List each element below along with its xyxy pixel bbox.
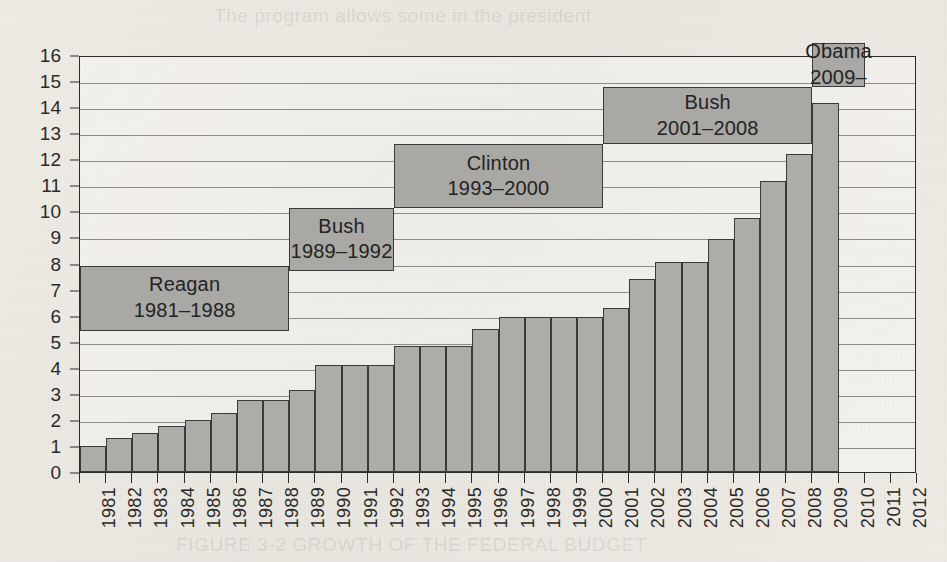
x-tick-mark [576, 473, 577, 483]
annotation-president-years: 1993–2000 [448, 176, 550, 202]
y-tick-mark-1 [70, 446, 79, 447]
y-tick-mark-13 [70, 134, 79, 135]
x-tick-label-1991: 1991 [361, 487, 382, 528]
bar-1983 [132, 433, 158, 472]
x-tick-mark [210, 473, 211, 483]
x-tick-mark [105, 473, 106, 483]
x-tick-mark [184, 473, 185, 483]
x-tick-label-2002: 2002 [648, 487, 669, 528]
annotation-president-name: Reagan [149, 272, 220, 298]
x-tick-label-2005: 2005 [727, 487, 748, 528]
y-tick-label-13: 13 [13, 123, 61, 145]
annotation-president-name: Clinton [467, 151, 531, 177]
x-tick-label-2006: 2006 [753, 487, 774, 528]
x-tick-mark [445, 473, 446, 483]
x-tick-mark [498, 473, 499, 483]
annotation-reagan-1981: Reagan1981–1988 [80, 266, 289, 331]
bar-chart-figure: Reagan1981–1988Bush1989–1992Clinton1993–… [0, 0, 947, 562]
x-tick-label-1982: 1982 [125, 487, 146, 528]
x-tick-label-1997: 1997 [518, 487, 539, 528]
annotation-clinton-1993: Clinton1993–2000 [394, 144, 603, 208]
bar-2007 [760, 181, 786, 472]
x-tick-mark [602, 473, 603, 483]
y-tick-label-3: 3 [13, 384, 61, 406]
x-tick-label-1989: 1989 [308, 487, 329, 528]
bar-2009 [812, 103, 838, 472]
x-tick-mark [811, 473, 812, 483]
x-tick-label-2000: 2000 [596, 487, 617, 528]
x-tick-label-2007: 2007 [779, 487, 800, 528]
x-tick-mark [393, 473, 394, 483]
annotation-bush-2001: Bush2001–2008 [603, 87, 812, 144]
annotation-president-years: 1981–1988 [134, 298, 236, 324]
y-tick-label-10: 10 [13, 201, 61, 223]
bar-1981 [80, 446, 106, 472]
y-tick-mark-6 [70, 316, 79, 317]
annotation-president-name: Obama [805, 39, 872, 65]
y-tick-mark-14 [70, 108, 79, 109]
annotation-bush-1989: Bush1989–1992 [289, 208, 394, 271]
bar-1989 [289, 390, 315, 472]
x-tick-label-1985: 1985 [204, 487, 225, 528]
bar-1986 [211, 413, 237, 472]
x-tick-mark [79, 473, 80, 483]
x-tick-mark [681, 473, 682, 483]
annotation-president-years: 2001–2008 [657, 116, 759, 142]
bar-1984 [158, 426, 184, 472]
bar-2008 [786, 154, 812, 472]
annotation-obama-2009: Obama2009– [812, 43, 864, 87]
x-tick-label-1999: 1999 [570, 487, 591, 528]
y-tick-mark-3 [70, 394, 79, 395]
y-tick-label-6: 6 [13, 306, 61, 328]
y-tick-label-7: 7 [13, 280, 61, 302]
x-tick-label-1993: 1993 [413, 487, 434, 528]
x-tick-label-1986: 1986 [230, 487, 251, 528]
y-tick-label-16: 16 [13, 45, 61, 67]
y-tick-mark-7 [70, 290, 79, 291]
bar-2004 [682, 262, 708, 472]
y-tick-label-9: 9 [13, 227, 61, 249]
bar-1991 [342, 365, 368, 472]
y-tick-mark-15 [70, 82, 79, 83]
x-tick-mark [550, 473, 551, 483]
y-tick-mark-9 [70, 238, 79, 239]
y-tick-mark-4 [70, 368, 79, 369]
x-tick-label-1998: 1998 [544, 487, 565, 528]
bar-1988 [263, 400, 289, 472]
bar-1996 [472, 329, 498, 472]
bar-2000 [577, 317, 603, 472]
x-tick-mark [419, 473, 420, 483]
y-tick-mark-16 [70, 56, 79, 57]
y-tick-label-11: 11 [13, 175, 61, 197]
bar-1987 [237, 400, 263, 472]
x-tick-mark [654, 473, 655, 483]
x-tick-label-1992: 1992 [387, 487, 408, 528]
y-tick-label-1: 1 [13, 436, 61, 458]
x-tick-label-1990: 1990 [334, 487, 355, 528]
x-tick-label-2012: 2012 [910, 487, 931, 528]
x-tick-mark [262, 473, 263, 483]
x-tick-label-2009: 2009 [831, 487, 852, 528]
y-tick-mark-10 [70, 212, 79, 213]
x-tick-label-1981: 1981 [99, 487, 120, 528]
x-tick-label-1987: 1987 [256, 487, 277, 528]
x-tick-mark [157, 473, 158, 483]
x-tick-label-2001: 2001 [622, 487, 643, 528]
y-tick-label-5: 5 [13, 332, 61, 354]
x-tick-label-1995: 1995 [465, 487, 486, 528]
x-tick-mark [733, 473, 734, 483]
y-tick-label-0: 0 [13, 462, 61, 484]
bar-1997 [499, 317, 525, 472]
x-tick-label-2008: 2008 [805, 487, 826, 528]
x-tick-mark [341, 473, 342, 483]
y-tick-mark-5 [70, 342, 79, 343]
x-tick-mark [864, 473, 865, 483]
plot-area: Reagan1981–1988Bush1989–1992Clinton1993–… [79, 56, 916, 473]
y-tick-label-2: 2 [13, 410, 61, 432]
y-tick-label-14: 14 [13, 97, 61, 119]
y-tick-mark-8 [70, 264, 79, 265]
x-tick-label-2010: 2010 [858, 487, 879, 528]
x-tick-mark [707, 473, 708, 483]
x-tick-label-1994: 1994 [439, 487, 460, 528]
bar-2001 [603, 308, 629, 472]
